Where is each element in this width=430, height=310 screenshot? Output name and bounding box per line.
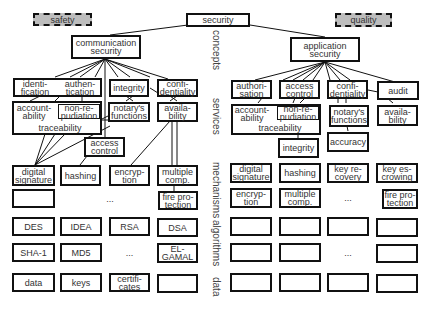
application-security-label: application security xyxy=(303,42,346,58)
right-multiple-comp: multiple comp. xyxy=(279,188,321,208)
dsa-label: DSA xyxy=(168,224,187,232)
right-algo-empty-1 xyxy=(230,217,272,236)
multiple-comp-label: multiple comp. xyxy=(284,190,315,206)
communication-security-box: communication security xyxy=(71,35,141,59)
availability-label: availa- bility xyxy=(164,104,191,120)
layer-label-algorithms: algorithms xyxy=(211,220,222,266)
notarys-functions-label: notary's functions xyxy=(111,104,147,120)
traceability-label: traceability xyxy=(38,124,81,132)
digital-signature-label: digital signature xyxy=(15,168,52,184)
access-control-label: access control xyxy=(285,82,313,98)
non-repudiation-label: non-re- pudiation xyxy=(61,104,98,120)
security-box: security xyxy=(186,13,250,27)
accountability-label: account- ability xyxy=(235,106,270,122)
right-accountability: account- ability xyxy=(233,106,271,121)
right-confidentiality: confi- dentiality xyxy=(327,80,368,99)
right-key-recovery: key re- covery xyxy=(327,163,369,183)
right-data-empty-3 xyxy=(327,273,369,292)
key-recovery-label: key re- covery xyxy=(334,165,362,181)
fire-protection-label: fire pro- tection xyxy=(384,191,415,207)
layer-label-services: services xyxy=(211,98,222,135)
right-data-empty-1 xyxy=(230,273,272,292)
layer-label-concepts: concepts xyxy=(211,30,222,70)
ellipsis-label: ... xyxy=(126,249,134,257)
security-label: security xyxy=(202,16,233,24)
left-algo-idea: IDEA xyxy=(60,217,102,236)
left-digital-signature: digital signature xyxy=(12,165,55,186)
left-accountability: account- ability xyxy=(14,104,54,120)
encryption-label: encryp- tion xyxy=(236,190,266,206)
layer-label-mechanisms: mechanisms xyxy=(211,162,222,218)
right-access-control: access control xyxy=(279,80,320,99)
authentication-label: authen- tication xyxy=(65,80,96,96)
hashing-label: hashing xyxy=(65,172,97,180)
right-key-escrowing: key es- crowing xyxy=(376,163,418,183)
left-fire-protection: fire pro- tection xyxy=(158,191,198,210)
left-non-repudiation: non-re- pudiation xyxy=(58,104,100,119)
sha1-label: SHA-1 xyxy=(20,249,47,257)
security-taxonomy-diagram: safety security quality communication se… xyxy=(0,0,430,310)
right-notarys-functions: notary's functions xyxy=(329,105,369,127)
right-accuracy: accuracy xyxy=(327,132,369,152)
left-algo-rsa: RSA xyxy=(109,217,150,236)
right-integrity: integrity xyxy=(278,138,319,158)
non-repudiation-label: non-re- pudiation xyxy=(280,105,317,121)
right-authorisation: authori- sation xyxy=(231,80,272,99)
keys-label: keys xyxy=(72,279,91,287)
layer-label-data: data xyxy=(211,277,222,296)
left-notarys-functions: notary's functions xyxy=(108,102,150,122)
left-availability: availa- bility xyxy=(157,102,198,122)
safety-box: safety xyxy=(33,13,92,26)
des-label: DES xyxy=(24,223,43,231)
right-algo-empty-5 xyxy=(230,243,272,262)
left-data-certificates: certifi- cates xyxy=(109,273,150,292)
right-data-empty-2 xyxy=(279,273,321,292)
authorisation-label: authori- sation xyxy=(236,82,267,98)
quality-box: quality xyxy=(335,13,392,27)
right-algo-empty-6 xyxy=(279,243,321,262)
confidentiality-label: confi- dentiality xyxy=(160,80,196,96)
integrity-label: integrity xyxy=(283,144,315,152)
elgamal-label: EL- GAMAL xyxy=(162,245,194,261)
left-algo-elgamal: EL- GAMAL xyxy=(157,243,198,263)
multiple-comp-label: multiple comp. xyxy=(162,168,193,184)
left-confidentiality: confi- dentiality xyxy=(157,79,198,97)
left-integrity: integrity xyxy=(109,79,149,97)
integrity-label: integrity xyxy=(113,84,145,92)
left-algo-sha1: SHA-1 xyxy=(12,243,55,262)
right-algo-empty-2 xyxy=(279,217,321,236)
availability-label: availa- bility xyxy=(384,108,411,124)
accountability-label: account- ability xyxy=(17,104,52,120)
ellipsis-label: ... xyxy=(344,194,352,202)
confidentiality-label: confi- dentiality xyxy=(330,82,366,98)
hashing-label: hashing xyxy=(284,169,316,177)
left-multiple-comp: multiple comp. xyxy=(157,165,198,186)
fire-protection-label: fire pro- tection xyxy=(162,193,193,209)
left-traceability: traceability xyxy=(30,122,90,133)
left-data-keys: keys xyxy=(60,273,102,292)
application-security-box: application security xyxy=(290,37,360,62)
right-algo-empty-3 xyxy=(327,217,369,236)
left-identification: identi- fication xyxy=(16,80,54,96)
key-escrowing-label: key es- crowing xyxy=(381,165,412,181)
right-data-empty-4 xyxy=(376,274,418,293)
rsa-label: RSA xyxy=(120,223,139,231)
digital-signature-label: digital signature xyxy=(232,165,269,181)
left-algo-des: DES xyxy=(12,217,55,236)
notarys-functions-label: notary's functions xyxy=(331,108,367,124)
md5-label: MD5 xyxy=(71,249,90,257)
audit-label: audit xyxy=(388,87,408,95)
left-data-data: data xyxy=(12,273,55,292)
left-encryption: encryp- tion xyxy=(109,165,150,186)
encryption-label: encryp- tion xyxy=(114,168,144,184)
right-mechanism-ellipsis: ... xyxy=(327,188,369,208)
communication-security-label: communication security xyxy=(76,39,137,55)
right-traceability: traceability xyxy=(250,123,310,133)
left-algo-ellipsis: ... xyxy=(109,243,150,262)
left-algo-dsa: DSA xyxy=(157,218,198,237)
right-algo-empty-7 xyxy=(376,244,418,263)
right-non-repudiation: non-re- pudiation xyxy=(277,106,319,120)
left-authentication: authen- tication xyxy=(60,80,100,96)
identification-label: identi- fication xyxy=(21,80,50,96)
ellipsis-label: ... xyxy=(344,249,352,257)
